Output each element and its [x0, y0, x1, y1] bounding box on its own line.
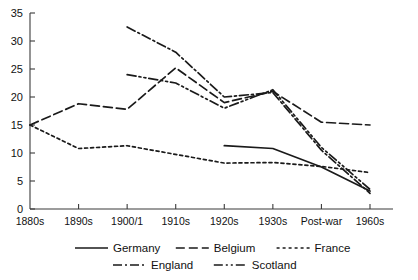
legend-label-germany: Germany: [113, 242, 161, 254]
y-tick-label-20: 20: [11, 91, 23, 103]
chart-container: 05101520253035 1880s1890s1900/11910s1920…: [0, 0, 418, 280]
legend-label-belgium: Belgium: [214, 242, 256, 254]
x-tick-label-1910s: 1910s: [161, 215, 190, 227]
y-tick-label-10: 10: [11, 147, 23, 159]
legend-label-france: France: [315, 242, 351, 254]
line-chart: 05101520253035 1880s1890s1900/11910s1920…: [0, 0, 418, 280]
x-tick-label-1920s: 1920s: [210, 215, 239, 227]
x-tick-label-1960s: 1960s: [356, 215, 385, 227]
x-tick-label-1880s: 1880s: [16, 215, 45, 227]
x-tick-label-1900-1: 1900/1: [111, 215, 143, 227]
y-tick-label-15: 15: [11, 119, 23, 131]
x-tick-label-1930s: 1930s: [259, 215, 288, 227]
y-tick-label-0: 0: [17, 203, 23, 215]
legend-label-england: England: [151, 259, 193, 271]
y-tick-label-5: 5: [17, 175, 23, 187]
y-tick-label-30: 30: [11, 35, 23, 47]
x-tick-label-post-war: Post-war: [301, 215, 343, 227]
x-tick-label-1890s: 1890s: [64, 215, 93, 227]
y-tick-label-35: 35: [11, 7, 23, 19]
y-tick-label-25: 25: [11, 63, 23, 75]
legend-label-scotland: Scotland: [252, 259, 297, 271]
